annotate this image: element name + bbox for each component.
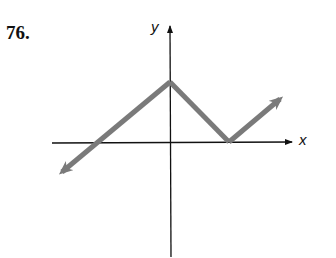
graph-left-ray	[62, 82, 170, 172]
graph-right-ray	[229, 99, 280, 142]
x-axis	[52, 142, 292, 143]
x-axis-label: x	[299, 131, 307, 148]
graph-line	[170, 82, 229, 142]
y-axis	[170, 26, 171, 257]
graph	[0, 0, 336, 258]
exercise-figure: 76. y x	[0, 0, 336, 258]
y-axis-label: y	[151, 18, 159, 35]
